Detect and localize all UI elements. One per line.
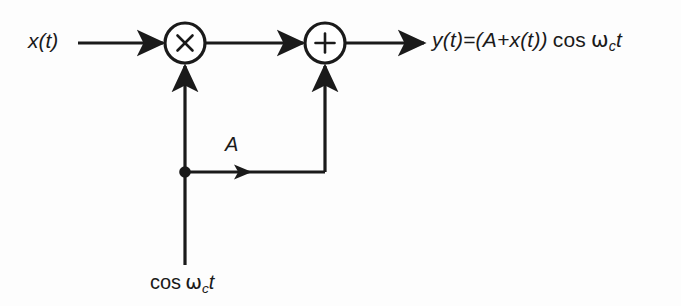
carrier-subscript: c (202, 281, 209, 296)
carrier-cos-text: cos (150, 271, 181, 293)
carrier-omega-symbol: ω (185, 270, 202, 294)
input-signal-label: x(t) (28, 30, 58, 51)
output-equation-lhs: y(t)=(A+x(t)) (432, 28, 548, 51)
carrier-label: cosωct (150, 272, 214, 295)
gain-branch-label: A (225, 134, 238, 154)
block-diagram-canvas: x(t) A cosωct y(t)=(A+x(t))cosωct (0, 0, 681, 306)
output-cos-text: cos (553, 28, 586, 51)
output-time-variable: t (616, 28, 622, 51)
output-equation-label: y(t)=(A+x(t))cosωct (432, 29, 622, 53)
carrier-split-dot (179, 166, 191, 178)
carrier-time-variable: t (209, 271, 215, 293)
output-omega-symbol: ω (591, 28, 609, 52)
output-subscript: c (609, 38, 616, 54)
